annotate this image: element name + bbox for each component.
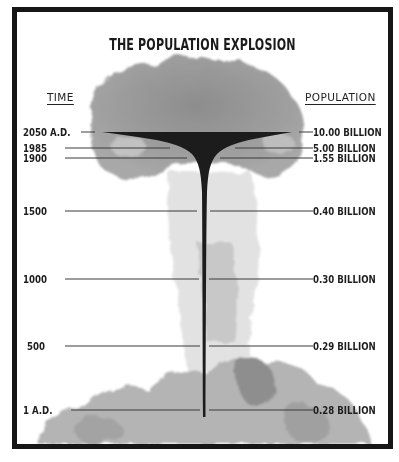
chart-frame: THE POPULATION EXPLOSION TIME POPULATION… xyxy=(12,7,393,449)
time-label-500: 500 xyxy=(27,340,45,352)
population-label-1900: 1.55 BILLION xyxy=(313,152,376,164)
mushroom-cloud-image xyxy=(17,12,388,444)
chart-title: THE POPULATION EXPLOSION xyxy=(50,36,354,54)
time-label-1000: 1000 xyxy=(23,273,47,285)
population-label-2050: 10.00 BILLION xyxy=(313,126,382,138)
time-axis-title: TIME xyxy=(47,91,74,103)
time-label-1900: 1900 xyxy=(23,152,47,164)
population-label-1000: 0.30 BILLION xyxy=(313,273,376,285)
time-label-1ad: 1 A.D. xyxy=(23,404,53,416)
time-label-2050: 2050 A.D. xyxy=(23,126,70,138)
population-label-1500: 0.40 BILLION xyxy=(313,205,376,217)
population-label-1ad: 0.28 BILLION xyxy=(313,404,376,416)
population-label-500: 0.29 BILLION xyxy=(313,340,376,352)
time-label-1500: 1500 xyxy=(23,205,47,217)
population-axis-title: POPULATION xyxy=(305,91,376,103)
